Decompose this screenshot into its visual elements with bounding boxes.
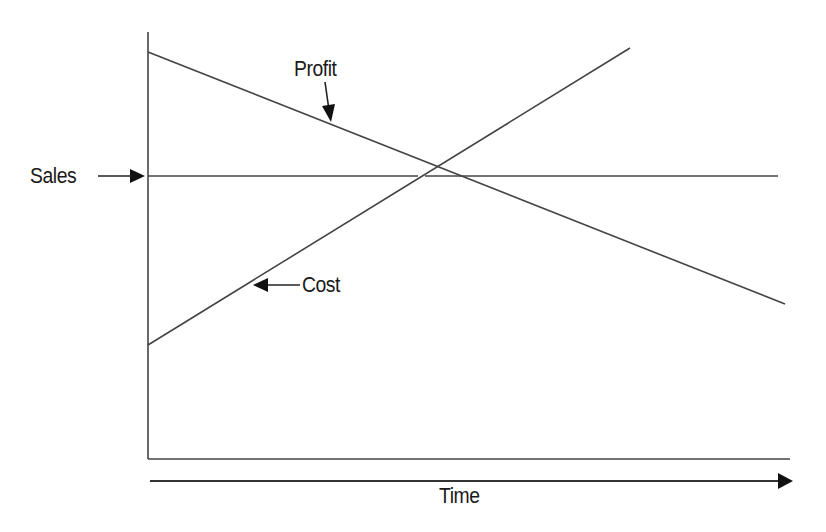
profit-arrowhead-icon: [322, 104, 335, 122]
sales-arrowhead-icon: [130, 169, 145, 183]
time-label: Time: [439, 485, 480, 507]
profit-label: Profit: [294, 58, 337, 80]
sales-label: Sales: [30, 165, 76, 187]
cost-arrowhead-icon: [253, 278, 268, 292]
diagram-canvas: [0, 0, 826, 532]
time-arrowhead-icon: [778, 473, 793, 489]
profit-line: [148, 52, 785, 304]
cost-line: [148, 48, 630, 345]
cost-label: Cost: [302, 274, 340, 296]
